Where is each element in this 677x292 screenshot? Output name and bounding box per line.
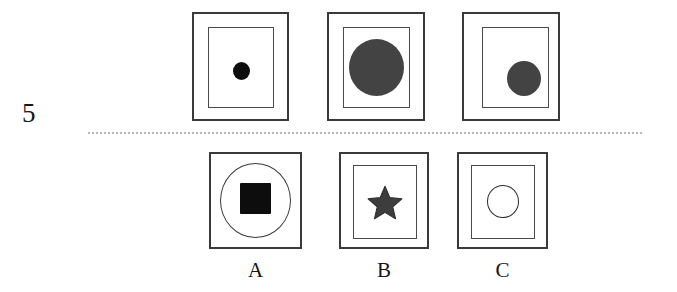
option-panel-b[interactable] (339, 152, 429, 249)
option-label-b: B (339, 258, 429, 282)
dotted-divider (88, 132, 642, 134)
option-panel-c[interactable] (457, 152, 548, 249)
stimulus-panel-3 (462, 12, 560, 121)
option-a-square-black (240, 183, 271, 214)
option-panel-a[interactable] (209, 152, 302, 249)
option-label-a: A (209, 258, 302, 282)
item-number: 5 (22, 98, 36, 128)
stimulus-panel-1 (192, 12, 289, 121)
stimulus-panel-1-circle-small-black (233, 62, 250, 80)
stimulus-panel-2-circle-large-gray (349, 39, 404, 96)
option-label-c: C (457, 258, 548, 282)
option-c-circle-outline (487, 185, 519, 218)
option-b-star-gray (367, 185, 403, 220)
test-item-canvas: 5 A B C (0, 0, 677, 292)
stimulus-panel-3-circle-medium-gray (507, 61, 541, 96)
stimulus-panel-2 (327, 12, 425, 121)
